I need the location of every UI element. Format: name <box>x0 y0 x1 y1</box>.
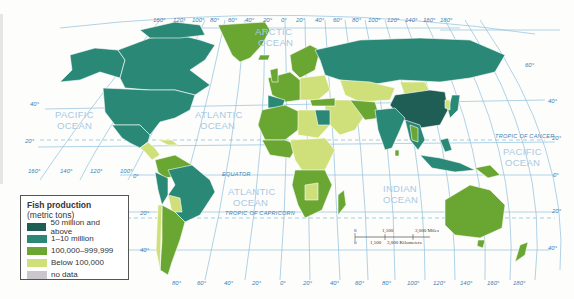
svg-text:100°: 100° <box>368 17 381 23</box>
svg-text:120°: 120° <box>173 17 186 23</box>
svg-text:140°: 140° <box>60 168 73 174</box>
swatch <box>27 223 46 231</box>
indian-ocean-label: INDIAN <box>383 183 417 194</box>
svg-text:60°: 60° <box>228 17 238 23</box>
svg-text:0: 0 <box>354 240 357 245</box>
svg-text:OCEAN: OCEAN <box>505 157 540 168</box>
svg-text:0°: 0° <box>553 172 559 178</box>
svg-text:100°: 100° <box>120 168 133 174</box>
svg-text:0°: 0° <box>280 280 286 286</box>
new-zealand <box>515 242 528 262</box>
svg-text:1,500: 1,500 <box>382 228 394 234</box>
svg-text:60°: 60° <box>333 17 343 23</box>
svg-text:60°: 60° <box>355 280 365 286</box>
swatch <box>27 259 47 267</box>
svg-text:60°: 60° <box>197 280 207 286</box>
svg-text:140°: 140° <box>405 17 418 23</box>
svg-text:160°: 160° <box>487 280 500 286</box>
svg-text:60°: 60° <box>525 62 535 68</box>
svg-text:100°: 100° <box>407 280 420 286</box>
madagascar <box>338 190 346 215</box>
indonesia <box>420 155 475 172</box>
svg-text:1,500: 1,500 <box>370 240 382 246</box>
svg-text:40°: 40° <box>245 17 255 23</box>
svg-text:40°: 40° <box>330 280 340 286</box>
pacific-ocean-west-label: PACIFIC <box>55 109 94 120</box>
svg-text:40°: 40° <box>224 280 234 286</box>
svg-text:160°: 160° <box>153 17 166 23</box>
atlantic-ocean-south-label: ATLANTIC <box>228 186 276 197</box>
svg-text:80°: 80° <box>172 280 182 286</box>
kazakhstan <box>340 80 395 102</box>
svg-text:140°: 140° <box>460 280 473 286</box>
svg-text:40°: 40° <box>140 247 150 253</box>
svg-text:160°: 160° <box>28 168 41 174</box>
svg-text:20°: 20° <box>24 138 35 144</box>
papua <box>475 165 500 178</box>
atlantic-ocean-north-label: ATLANTIC <box>195 109 243 120</box>
arctic-islands <box>140 22 205 38</box>
svg-text:0: 0 <box>354 228 357 233</box>
swatch <box>27 235 47 243</box>
canada <box>118 35 215 95</box>
arctic-ocean-label: ARCTIC <box>255 26 292 37</box>
svg-text:40°: 40° <box>548 98 558 104</box>
svg-text:80°: 80° <box>210 17 220 23</box>
north-africa-west <box>258 105 300 140</box>
svg-text:20°: 20° <box>251 280 262 286</box>
svg-text:0°: 0° <box>281 17 287 23</box>
legend-title: Fish production <box>27 200 122 210</box>
svg-text:40°: 40° <box>315 17 325 23</box>
svg-text:3,000 Kilometers: 3,000 Kilometers <box>387 240 422 246</box>
korea <box>445 100 450 110</box>
mid-longitude-labels: 160° 140° 120° 100° <box>28 168 133 174</box>
tropic-of-capricorn-label: TROPIC OF CAPRICORN <box>225 210 295 216</box>
top-longitude-labels: 160° 120° 100° 80° 60° 40° 20° 0° 20° 40… <box>153 17 453 23</box>
svg-text:OCEAN: OCEAN <box>57 120 92 131</box>
svg-text:180°: 180° <box>440 17 453 23</box>
europe-east <box>300 75 330 100</box>
svg-text:80°: 80° <box>382 280 392 286</box>
russia <box>315 38 505 85</box>
svg-text:OCEAN: OCEAN <box>233 197 268 208</box>
svg-text:120°: 120° <box>433 280 446 286</box>
svg-text:20°: 20° <box>302 280 313 286</box>
legend-item-below-100k: Below 100,000 <box>27 257 122 268</box>
svg-text:180°: 180° <box>513 280 526 286</box>
bottom-longitude-labels: 80° 60° 40° 20° 0° 20° 40° 60° 80° 100° … <box>172 280 526 286</box>
svg-text:120°: 120° <box>90 168 103 174</box>
map-legend: Fish production (metric tons) 50 million… <box>20 195 129 280</box>
svg-text:OCEAN: OCEAN <box>258 37 293 48</box>
svg-text:40°: 40° <box>548 245 558 251</box>
svg-text:20°: 20° <box>295 17 306 23</box>
egypt <box>315 110 330 125</box>
equator-label: EQUATOR <box>222 171 251 177</box>
australia <box>445 185 505 238</box>
svg-text:20°: 20° <box>551 135 562 141</box>
swatch <box>27 247 47 255</box>
legend-item-100k-1m: 100,000–999,999 <box>27 245 122 256</box>
tropic-of-cancer-label: TROPIC OF CANCER <box>495 133 554 139</box>
caribbean <box>158 140 178 145</box>
svg-text:120°: 120° <box>387 17 400 23</box>
legend-item-no-data: no data <box>27 269 122 280</box>
svg-text:OCEAN: OCEAN <box>383 194 418 205</box>
svg-text:20°: 20° <box>139 210 150 216</box>
peru-chile-coast <box>155 172 168 205</box>
svg-text:OCEAN: OCEAN <box>200 120 235 131</box>
svg-text:3,000 Miles: 3,000 Miles <box>415 228 439 234</box>
land <box>60 22 528 275</box>
svg-text:80°: 80° <box>352 17 362 23</box>
svg-text:20°: 20° <box>262 17 273 23</box>
svg-text:40°: 40° <box>30 101 40 107</box>
svg-text:0°: 0° <box>133 173 139 179</box>
pacific-ocean-east-label: PACIFIC <box>503 146 542 157</box>
central-africa <box>290 138 335 175</box>
svg-text:160°: 160° <box>423 17 436 23</box>
svg-text:100°: 100° <box>192 17 205 23</box>
svg-text:20°: 20° <box>551 208 562 214</box>
legend-item-50m: 50 million and above <box>27 221 122 232</box>
swatch <box>27 271 47 279</box>
